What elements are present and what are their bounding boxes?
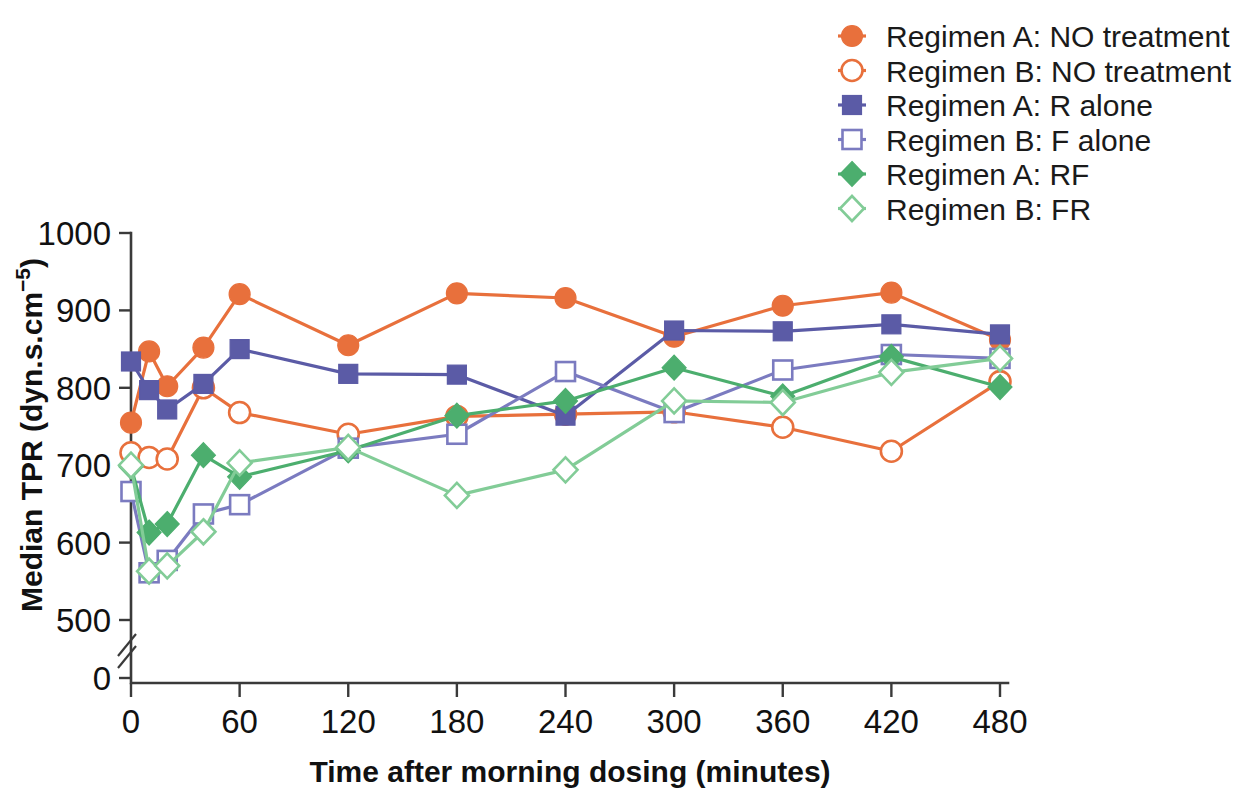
legend-item-2[interactable]: Regimen A: R alone [838, 89, 1153, 122]
legend-marker-icon [840, 196, 864, 221]
legend-marker-icon [840, 162, 864, 187]
legend-item-label: Regimen A: R alone [886, 89, 1153, 122]
legend-item-label: Regimen B: FR [886, 193, 1091, 226]
legend-marker-icon [842, 26, 863, 47]
data-point [139, 341, 160, 362]
data-point [230, 340, 249, 359]
x-tick-label: 480 [972, 703, 1027, 740]
data-point [991, 325, 1010, 344]
data-point [230, 495, 249, 514]
data-point [122, 352, 141, 371]
data-point [772, 417, 793, 438]
data-point [556, 362, 575, 381]
line-chart-svg: 5006007008009001000006012018024030036042… [0, 0, 1234, 794]
data-point [554, 457, 578, 482]
legend-marker-icon [842, 60, 863, 81]
legend-item-label: Regimen B: NO treatment [886, 55, 1232, 88]
data-point [140, 381, 159, 400]
legend-item-4[interactable]: Regimen A: RF [838, 158, 1089, 191]
data-point [191, 443, 215, 468]
data-point [157, 376, 178, 397]
legend-marker-icon [843, 130, 862, 149]
y-tick-label: 500 [56, 602, 111, 639]
data-point [193, 337, 214, 358]
legend-item-3[interactable]: Regimen B: F alone [838, 124, 1151, 157]
data-point [194, 374, 213, 393]
y-tick-label: 1000 [38, 215, 111, 252]
data-point [447, 365, 466, 384]
x-tick-label: 300 [647, 703, 702, 740]
data-point [445, 483, 469, 508]
data-point [229, 402, 250, 423]
data-point [662, 355, 686, 380]
legend-item-1[interactable]: Regimen B: NO treatment [838, 55, 1232, 88]
legend-item-label: Regimen A: NO treatment [886, 20, 1230, 53]
data-point [339, 364, 358, 383]
legend-item-label: Regimen B: F alone [886, 124, 1151, 157]
data-point [773, 322, 792, 341]
x-axis-title: Time after morning dosing (minutes) [309, 755, 830, 788]
data-point [881, 282, 902, 303]
x-tick-label: 240 [538, 703, 593, 740]
legend-item-0[interactable]: Regimen A: NO treatment [838, 20, 1230, 53]
data-point [157, 449, 178, 470]
y-tick-label: 900 [56, 292, 111, 329]
y-axis-title: Median TPR (dyn.s.cm−5) [11, 258, 48, 612]
y-tick-label-zero: 0 [93, 660, 111, 697]
series-line [131, 357, 1000, 533]
legend-item-label: Regimen A: RF [886, 158, 1089, 191]
x-tick-label: 0 [122, 703, 140, 740]
chart-figure: 5006007008009001000006012018024030036042… [0, 0, 1234, 794]
y-tick-label: 600 [56, 525, 111, 562]
y-tick-label: 800 [56, 370, 111, 407]
data-point [882, 315, 901, 334]
legend-item-5[interactable]: Regimen B: FR [838, 193, 1091, 226]
x-tick-label: 420 [864, 703, 919, 740]
x-tick-label: 120 [321, 703, 376, 740]
legend-marker-icon [843, 96, 862, 115]
data-point [881, 441, 902, 462]
data-point [446, 283, 467, 304]
y-axis-break-mark [118, 646, 136, 668]
data-point [555, 288, 576, 309]
x-tick-label: 360 [755, 703, 810, 740]
data-point [772, 295, 793, 316]
x-tick-label: 180 [429, 703, 484, 740]
data-point [338, 335, 359, 356]
data-point [158, 400, 177, 419]
y-axis-break-mark [118, 634, 136, 656]
x-tick-label: 60 [221, 703, 258, 740]
data-point [773, 360, 792, 379]
data-point [121, 412, 142, 433]
data-point [665, 321, 684, 340]
data-point [229, 284, 250, 305]
y-tick-label: 700 [56, 447, 111, 484]
